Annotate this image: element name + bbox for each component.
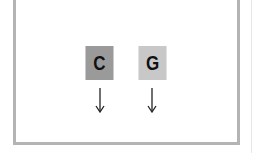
- page-edge: [251, 0, 252, 153]
- base-label-g: G: [146, 52, 159, 75]
- base-label-c: C: [93, 52, 105, 75]
- diagram-frame: [13, 0, 240, 145]
- down-arrow-icon: [146, 88, 158, 113]
- base-box-g: G: [138, 46, 166, 80]
- down-arrow-icon: [94, 88, 106, 113]
- base-box-c: C: [85, 46, 113, 80]
